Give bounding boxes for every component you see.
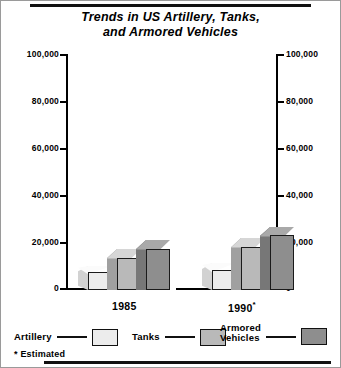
y-axis-left — [66, 54, 68, 290]
y-tick-right-40000 — [278, 195, 284, 197]
y-tick-left-60000 — [60, 148, 66, 150]
legend-label-tanks: Tanks — [132, 332, 160, 342]
legend-connector-tanks — [165, 336, 195, 338]
y-tick-right-80000 — [278, 101, 284, 103]
y-label-left-40000: 40,000 — [32, 190, 59, 200]
legend-item-armored-vehicles[interactable]: Armored Vehicles — [220, 322, 327, 344]
y-label-right-100000: 100,000 — [286, 49, 318, 59]
y-label-left-0: 0 — [54, 283, 59, 293]
legend-swatch-artillery — [92, 329, 118, 346]
legend-label-armored-vehicles: Armored Vehicles — [220, 323, 261, 343]
x-label-1990-asterisk: * — [253, 300, 256, 309]
y-label-left-60000: 60,000 — [32, 143, 59, 153]
y-label-left-20000: 20,000 — [32, 237, 59, 247]
y-label-left-100000: 100,000 — [27, 49, 59, 59]
y-tick-left-100000 — [60, 54, 66, 56]
y-tick-right-60000 — [278, 148, 284, 150]
legend-item-artillery[interactable]: Artillery — [14, 326, 118, 348]
y-tick-left-40000 — [60, 195, 66, 197]
x-label-1990: 1990* — [228, 300, 256, 314]
y-label-left-80000: 80,000 — [32, 96, 59, 106]
bar-1985-armored — [146, 249, 170, 290]
bar-1990-armored — [270, 235, 294, 290]
legend-label-armored-line2: Vehicles — [220, 333, 261, 343]
y-label-right-60000: 60,000 — [286, 143, 313, 153]
legend-item-tanks[interactable]: Tanks — [132, 326, 226, 348]
x-label-1985: 1985 — [112, 300, 137, 312]
y-tick-left-0 — [60, 288, 66, 290]
legend-connector-armored-vehicles — [266, 336, 296, 338]
y-tick-right-100000 — [278, 54, 284, 56]
chart-legend: Artillery Tanks Armored Vehicles — [14, 326, 330, 350]
legend-label-artillery: Artillery — [14, 332, 52, 342]
y-tick-left-80000 — [60, 101, 66, 103]
bottom-divider-rule — [44, 361, 331, 364]
y-label-right-80000: 80,000 — [286, 96, 313, 106]
legend-connector-artillery — [57, 336, 87, 338]
footnote-estimated: * Estimated — [14, 349, 65, 359]
y-label-right-40000: 40,000 — [286, 190, 313, 200]
plot-area: 100,000 80,000 60,000 40,000 20,000 0 10… — [0, 0, 341, 368]
y-tick-left-20000 — [60, 242, 66, 244]
legend-swatch-armored-vehicles — [301, 328, 327, 345]
